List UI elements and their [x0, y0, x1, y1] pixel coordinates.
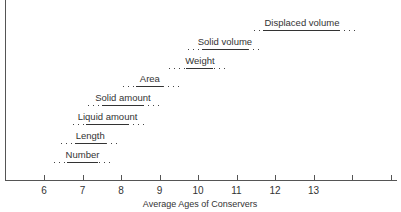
x-tick: [198, 175, 199, 180]
x-tick-label: 6: [41, 185, 47, 196]
solid-range-line: [102, 105, 144, 106]
x-axis-line: [5, 180, 397, 181]
range-label: Area: [140, 73, 160, 84]
x-tick: [44, 175, 45, 180]
range-row: Area: [0, 86, 401, 87]
solid-range-line: [263, 30, 340, 31]
x-tick: [160, 175, 161, 180]
range-label: Number: [66, 149, 100, 160]
solid-range-line: [86, 124, 128, 125]
solid-range-line: [136, 86, 163, 87]
x-tick: [314, 175, 315, 180]
x-tick-label: 8: [118, 185, 124, 196]
range-row: Displaced volume: [0, 30, 401, 31]
range-label: Solid amount: [95, 92, 150, 103]
x-tick: [237, 175, 238, 180]
x-tick: [391, 175, 392, 180]
x-tick-label: 10: [192, 185, 203, 196]
x-tick: [275, 175, 276, 180]
x-tick-label: 12: [269, 185, 280, 196]
range-row: Liquid amount: [0, 124, 401, 125]
range-label: Weight: [185, 55, 214, 66]
range-label: Solid volume: [198, 36, 252, 47]
range-label: Displaced volume: [264, 17, 339, 28]
x-axis-title: Average Ages of Conservers: [143, 199, 257, 209]
range-row: Weight: [0, 68, 401, 69]
x-tick: [121, 175, 122, 180]
x-tick: [83, 175, 84, 180]
range-label: Liquid amount: [78, 111, 138, 122]
range-row: Length: [0, 143, 401, 144]
solid-range-line: [75, 143, 106, 144]
solid-range-line: [202, 49, 248, 50]
range-row: Solid volume: [0, 49, 401, 50]
range-row: Solid amount: [0, 105, 401, 106]
x-tick-label: 11: [231, 185, 241, 196]
range-row: Number: [0, 162, 401, 163]
solid-range-line: [67, 162, 98, 163]
y-axis-line: [5, 0, 6, 181]
x-tick-label: 7: [80, 185, 86, 196]
conservation-age-chart: 678910111213 NumberLengthLiquid amountSo…: [0, 0, 401, 212]
range-label: Length: [76, 130, 105, 141]
x-tick-label: 13: [308, 185, 319, 196]
x-tick: [352, 175, 353, 180]
x-tick-label: 9: [157, 185, 163, 196]
solid-range-line: [186, 68, 213, 69]
